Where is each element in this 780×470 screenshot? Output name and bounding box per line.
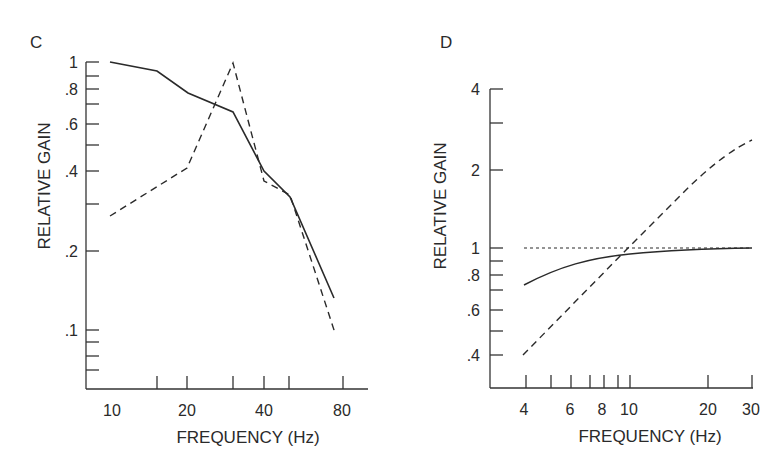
y-tick-label: .4 [467, 347, 480, 364]
y-tick-label: .6 [65, 116, 78, 133]
panel-letter-c: C [30, 33, 42, 52]
y-tick-label: 4 [471, 81, 480, 98]
y-ticks-d [490, 89, 503, 355]
y-tick-labels-c: 1 .8 .6 .4 .2 .1 [65, 54, 78, 339]
x-tick-label: 8 [598, 401, 607, 418]
x-ticks-d [526, 375, 752, 388]
y-tick-label: 2 [471, 162, 480, 179]
x-axis-label-c: FREQUENCY (Hz) [176, 428, 319, 447]
y-tick-labels-d: 4 2 1 .8 .6 .4 [467, 81, 480, 364]
x-tick-label: 30 [742, 401, 760, 418]
x-tick-label: 20 [699, 401, 717, 418]
x-tick-label: 10 [103, 402, 121, 419]
x-tick-labels-d: 4 6 8 10 20 30 [520, 401, 760, 418]
y-tick-label: .6 [467, 302, 480, 319]
y-tick-label: .8 [467, 267, 480, 284]
x-tick-label: 40 [255, 402, 273, 419]
y-tick-label: 1 [69, 54, 78, 71]
x-tick-labels-c: 10 20 40 80 [103, 402, 351, 419]
x-ticks-c [157, 376, 343, 389]
y-tick-label: 1 [471, 240, 480, 257]
y-tick-label: .8 [65, 81, 78, 98]
x-tick-label: 10 [620, 401, 638, 418]
x-tick-label: 6 [566, 401, 575, 418]
panel-letter-d: D [440, 33, 452, 52]
y-tick-label: .4 [65, 163, 78, 180]
y-tick-label: .1 [65, 322, 78, 339]
series-solid-d [524, 248, 752, 285]
series-solid-c [110, 62, 334, 298]
x-axis-label-d: FREQUENCY (Hz) [578, 427, 721, 446]
y-tick-label: .2 [65, 243, 78, 260]
x-tick-label: 20 [178, 402, 196, 419]
chart-panel-c: C 1 .8 .6 .4 .2 .1 RELATIVE GAIN [30, 33, 368, 447]
y-axis-label-d: RELATIVE GAIN [431, 142, 450, 269]
y-axis-label-c: RELATIVE GAIN [35, 122, 54, 249]
chart-panel-d: D 4 2 1 .8 .6 .4 RELATIVE GAIN [431, 33, 760, 446]
x-tick-label: 80 [333, 402, 351, 419]
y-ticks-c [86, 62, 99, 370]
x-tick-label: 4 [520, 401, 529, 418]
series-dashed-c [110, 63, 335, 333]
